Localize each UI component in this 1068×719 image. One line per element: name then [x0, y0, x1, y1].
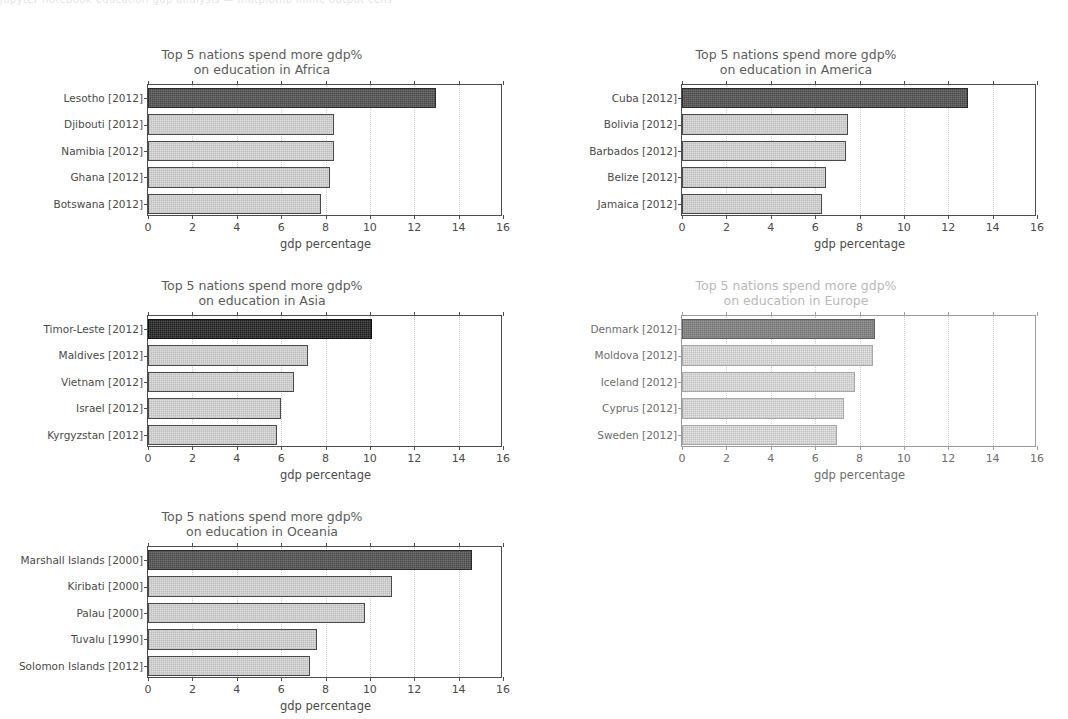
x-tick [459, 677, 460, 681]
x-tick-top [192, 312, 193, 316]
x-tick [771, 446, 772, 450]
x-tick-top [192, 543, 193, 547]
bar-row: Moldova [2012] [682, 345, 1037, 365]
x-tick [237, 215, 238, 219]
x-tick-top [148, 543, 149, 547]
x-tick-label: 8 [322, 452, 329, 465]
x-tick [860, 215, 861, 219]
x-tick-top [682, 81, 683, 85]
chart-panel-africa: Top 5 nations spend more gdp% on educati… [0, 25, 534, 261]
bar [148, 167, 330, 187]
bar [682, 114, 848, 134]
x-tick-top [281, 543, 282, 547]
bar-row: Kiribati [2000] [148, 576, 503, 596]
bar-row: Vietnam [2012] [148, 372, 503, 392]
bar-row: Palau [2000] [148, 603, 503, 623]
x-tick-top [860, 81, 861, 85]
x-tick [237, 446, 238, 450]
chart-panel-oceania: Top 5 nations spend more gdp% on educati… [0, 487, 534, 719]
x-tick [281, 677, 282, 681]
bar [148, 550, 472, 570]
bar-row: Iceland [2012] [682, 372, 1037, 392]
x-tick-label: 12 [941, 221, 955, 234]
x-tick [771, 215, 772, 219]
plot-area: 0246810121416Cuba [2012]Bolivia [2012]Ba… [681, 84, 1036, 216]
bar [148, 319, 372, 339]
plot-area: 0246810121416Marshall Islands [2000]Kiri… [147, 546, 502, 678]
x-tick-top [414, 312, 415, 316]
bar [148, 372, 294, 392]
chart-title: Top 5 nations spend more gdp% on educati… [12, 47, 512, 77]
y-tick [144, 382, 148, 383]
plot-area: 0246810121416Lesotho [2012]Djibouti [201… [147, 84, 502, 216]
x-tick-label: 2 [723, 452, 730, 465]
x-tick-top [771, 312, 772, 316]
x-tick [503, 677, 504, 681]
bar-row: Maldives [2012] [148, 345, 503, 365]
y-tick-label: Timor-Leste [2012] [43, 319, 143, 339]
y-tick [144, 98, 148, 99]
y-tick [678, 356, 682, 357]
y-tick [144, 356, 148, 357]
x-tick-top [281, 312, 282, 316]
y-tick-label: Botswana [2012] [53, 194, 143, 214]
x-tick-label: 0 [679, 221, 686, 234]
x-tick-top [815, 312, 816, 316]
bar [148, 629, 317, 649]
x-tick-label: 16 [496, 221, 510, 234]
y-tick [144, 151, 148, 152]
x-tick-label: 8 [856, 221, 863, 234]
y-tick [144, 587, 148, 588]
x-tick-top [459, 543, 460, 547]
bar-row: Solomon Islands [2012] [148, 656, 503, 676]
x-tick [237, 677, 238, 681]
x-tick-label: 4 [233, 683, 240, 696]
x-tick-label: 6 [812, 452, 819, 465]
x-tick [993, 446, 994, 450]
cut-off-toolbar-strip: jupyter notebook education gdp analysis … [0, 0, 1068, 11]
x-tick-label: 10 [897, 221, 911, 234]
x-tick [815, 215, 816, 219]
bar [148, 603, 365, 623]
x-tick-top [192, 81, 193, 85]
x-tick [459, 215, 460, 219]
x-tick [993, 215, 994, 219]
x-tick-top [148, 312, 149, 316]
x-tick-label: 10 [897, 452, 911, 465]
x-tick-top [948, 81, 949, 85]
x-tick-label: 14 [986, 221, 1000, 234]
bar [148, 345, 308, 365]
x-tick-label: 16 [496, 452, 510, 465]
x-tick-top [503, 81, 504, 85]
x-tick-top [1037, 312, 1038, 316]
x-tick-top [459, 312, 460, 316]
y-tick-label: Palau [2000] [76, 603, 143, 623]
y-tick [144, 204, 148, 205]
y-tick-label: Moldova [2012] [595, 345, 677, 365]
y-tick-label: Djibouti [2012] [64, 114, 143, 134]
chart-title: Top 5 nations spend more gdp% on educati… [12, 509, 512, 539]
bar-row: Jamaica [2012] [682, 194, 1037, 214]
bar-row: Ghana [2012] [148, 167, 503, 187]
x-tick [1037, 215, 1038, 219]
x-tick [326, 446, 327, 450]
x-tick-label: 4 [233, 221, 240, 234]
x-tick-label: 8 [856, 452, 863, 465]
x-axis-title: gdp percentage [148, 237, 503, 251]
x-tick-label: 14 [452, 452, 466, 465]
x-tick-label: 0 [145, 221, 152, 234]
x-tick-top [370, 543, 371, 547]
x-tick-top [904, 312, 905, 316]
y-tick [678, 177, 682, 178]
x-axis-title: gdp percentage [682, 237, 1037, 251]
bar [148, 88, 436, 108]
bar [682, 88, 968, 108]
x-tick-top [370, 81, 371, 85]
y-tick [678, 98, 682, 99]
bar-row: Timor-Leste [2012] [148, 319, 503, 339]
x-tick [948, 446, 949, 450]
bar-row: Barbados [2012] [682, 141, 1037, 161]
x-tick [370, 677, 371, 681]
x-tick [192, 215, 193, 219]
chart-panel-europe: Top 5 nations spend more gdp% on educati… [534, 256, 1068, 492]
